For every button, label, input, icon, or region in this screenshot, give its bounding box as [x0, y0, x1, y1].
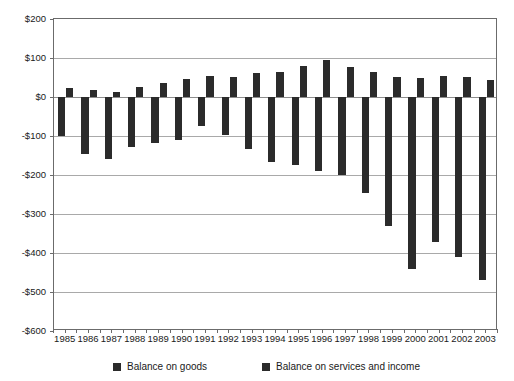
- bar: [198, 97, 205, 126]
- bar: [183, 79, 190, 97]
- x-axis-label: 1986: [77, 333, 98, 344]
- bar: [408, 97, 415, 269]
- x-tick-separator: [240, 329, 241, 333]
- bar: [268, 97, 275, 162]
- y-axis-label: -$600: [22, 325, 46, 336]
- x-tick-separator: [497, 329, 498, 333]
- legend-label: Balance on services and income: [276, 362, 420, 372]
- bar: [90, 90, 97, 97]
- bar: [487, 80, 494, 97]
- x-tick-separator: [474, 329, 475, 333]
- x-axis-label: 1990: [171, 333, 192, 344]
- bar: [362, 97, 369, 193]
- bar: [370, 72, 377, 97]
- x-axis-label: 1997: [335, 333, 356, 344]
- chart-legend: Balance on goodsBalance on services and …: [0, 360, 514, 380]
- x-axis-label: 2002: [451, 333, 472, 344]
- bar-slot: [241, 19, 264, 329]
- x-axis-label: 1985: [54, 333, 75, 344]
- bar-slot: [54, 19, 77, 329]
- x-tick-separator: [100, 329, 101, 333]
- bar: [230, 77, 237, 97]
- y-axis-label: -$500: [22, 286, 46, 297]
- plot-area: [53, 18, 497, 330]
- bar: [253, 73, 260, 97]
- bar-slot: [77, 19, 100, 329]
- legend-entry[interactable]: Balance on goods: [113, 362, 207, 372]
- y-axis-label: -$200: [22, 169, 46, 180]
- y-axis-label: $200: [25, 13, 46, 24]
- legend-swatch-services: [262, 363, 270, 371]
- bar: [292, 97, 299, 165]
- bar-slot: [101, 19, 124, 329]
- bar: [160, 83, 167, 97]
- x-tick-separator: [170, 329, 171, 333]
- bar-slot: [475, 19, 498, 329]
- bar: [66, 88, 73, 97]
- bar: [315, 97, 322, 171]
- y-axis-label: $0: [35, 91, 46, 102]
- bar: [440, 76, 447, 97]
- bar-slot: [194, 19, 217, 329]
- x-tick-separator: [427, 329, 428, 333]
- legend-label: Balance on goods: [127, 362, 207, 372]
- bar-slot: [264, 19, 287, 329]
- x-axis-label: 1998: [358, 333, 379, 344]
- x-tick-separator: [263, 329, 264, 333]
- bar: [463, 77, 470, 97]
- x-axis-label: 2001: [428, 333, 449, 344]
- bar-slot: [451, 19, 474, 329]
- x-tick-separator: [333, 329, 334, 333]
- bar: [347, 67, 354, 97]
- x-tick-separator: [217, 329, 218, 333]
- x-axis-label: 1989: [148, 333, 169, 344]
- x-tick-separator: [310, 329, 311, 333]
- bar: [105, 97, 112, 159]
- x-tick-separator: [193, 329, 194, 333]
- y-axis-label: -$100: [22, 130, 46, 141]
- x-axis-label: 1993: [241, 333, 262, 344]
- y-axis-labels: $200$100$0-$100-$200-$300-$400-$500-$600: [0, 0, 50, 381]
- x-tick-separator: [76, 329, 77, 333]
- bar: [151, 97, 158, 143]
- x-tick-separator: [287, 329, 288, 333]
- x-axis-labels: 1985198619871988198919901991199219931994…: [53, 333, 497, 349]
- x-tick-separator: [123, 329, 124, 333]
- y-axis-label: -$300: [22, 208, 46, 219]
- bar-slot: [124, 19, 147, 329]
- x-tick-separator: [404, 329, 405, 333]
- x-axis-label: 1988: [124, 333, 145, 344]
- bar: [393, 77, 400, 97]
- bar: [432, 97, 439, 242]
- bar: [417, 78, 424, 98]
- bar: [455, 97, 462, 257]
- x-tick-separator: [146, 329, 147, 333]
- bar: [175, 97, 182, 140]
- x-axis-label: 2003: [475, 333, 496, 344]
- bar-slot: [381, 19, 404, 329]
- bar: [81, 97, 88, 154]
- bar: [479, 97, 486, 280]
- y-axis-label: -$400: [22, 247, 46, 258]
- bar-slot: [334, 19, 357, 329]
- x-axis-label: 1987: [101, 333, 122, 344]
- bar-slot: [218, 19, 241, 329]
- bar-chart: $200$100$0-$100-$200-$300-$400-$500-$600…: [0, 0, 514, 381]
- bar: [245, 97, 252, 149]
- legend-entry[interactable]: Balance on services and income: [262, 362, 420, 372]
- x-tick-separator: [357, 329, 358, 333]
- bar: [128, 97, 135, 147]
- bar: [385, 97, 392, 226]
- x-axis-label: 1994: [264, 333, 285, 344]
- legend-swatch-goods: [113, 363, 121, 371]
- x-axis-label: 2000: [405, 333, 426, 344]
- bar: [113, 92, 120, 97]
- x-axis-label: 1995: [288, 333, 309, 344]
- bar: [338, 97, 345, 175]
- bar-slot: [428, 19, 451, 329]
- y-axis-label: $100: [25, 52, 46, 63]
- bar: [323, 60, 330, 97]
- bar-slot: [288, 19, 311, 329]
- bar: [136, 87, 143, 97]
- bar-slot: [311, 19, 334, 329]
